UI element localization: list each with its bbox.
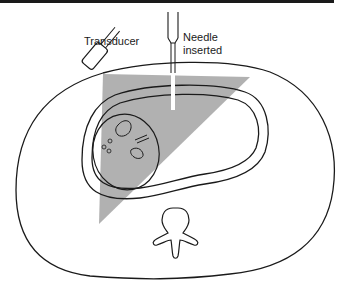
- cross-section-illustration: [0, 0, 346, 286]
- needle-label-line2: inserted: [183, 44, 222, 57]
- vertebra: [153, 208, 198, 258]
- transducer-label-text: Transducer: [84, 35, 139, 47]
- transducer-label: Transducer: [84, 35, 139, 48]
- needle-label-line1: Needle: [183, 31, 222, 44]
- ultrasound-guided-needle-diagram: Transducer Needle inserted: [0, 0, 346, 286]
- needle-hub-taper: [168, 38, 178, 43]
- needle-label: Needle inserted: [183, 31, 222, 57]
- needle-in-beam: [171, 74, 175, 110]
